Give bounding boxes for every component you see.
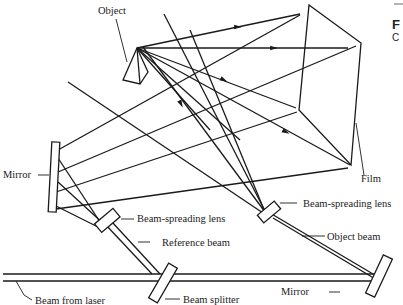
label-beam-from-laser: Beam from laser xyxy=(35,295,105,305)
holography-diagram: F C xyxy=(0,0,403,305)
label-reference-beam: Reference beam xyxy=(162,237,230,248)
label-object: Object xyxy=(98,5,126,16)
object-to-film-rays xyxy=(137,14,350,165)
film-plate[interactable] xyxy=(299,5,361,165)
label-mirror-left: Mirror xyxy=(3,169,31,180)
caption-letter-small: C xyxy=(392,32,399,43)
object-illumination-rays xyxy=(68,14,266,215)
label-mirror-right: Mirror xyxy=(281,286,309,297)
object-beam xyxy=(270,213,377,280)
label-object-beam: Object beam xyxy=(327,231,380,242)
mirror-to-film-rays xyxy=(56,15,356,209)
label-beam-spreading-lens-object: Beam-spreading lens xyxy=(303,198,391,209)
caption-letter: F xyxy=(392,17,400,32)
leader-lines xyxy=(16,19,364,300)
left-mirror[interactable] xyxy=(48,142,60,212)
label-beam-splitter: Beam splitter xyxy=(183,294,240,305)
reference-beam xyxy=(105,222,160,274)
reference-lens[interactable] xyxy=(95,208,120,232)
reference-rays xyxy=(56,158,106,230)
beam-splitter[interactable] xyxy=(149,263,178,303)
label-film: Film xyxy=(361,173,381,184)
label-beam-spreading-lens-reference: Beam-spreading lens xyxy=(137,213,225,224)
side-caption: F C xyxy=(392,4,403,43)
object-prism[interactable] xyxy=(123,48,148,84)
laser-beam xyxy=(3,274,380,281)
